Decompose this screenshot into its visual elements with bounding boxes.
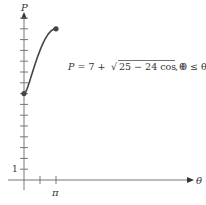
x-axis-label: θ: [196, 175, 202, 186]
x-tick-label-pi: π: [51, 187, 59, 198]
chart: P θ π 1 P = 7 + √ 25 − 24 cos θ , 0 ≤ θ …: [0, 0, 206, 205]
equation-domain: , 0 ≤ θ ≤ π: [175, 61, 206, 72]
plot-area: P θ π 1 P = 7 + √ 25 − 24 cos θ , 0 ≤ θ …: [0, 0, 206, 205]
y-tick-label-one: 1: [12, 164, 18, 174]
svg-text:P = 7 +: P = 7 +: [67, 61, 105, 72]
end-point: [53, 26, 58, 31]
x-axis-arrow-icon: [187, 177, 194, 183]
equation-annotation: P = 7 + √ 25 − 24 cos θ , 0 ≤ θ ≤ π: [67, 61, 206, 73]
y-axis-label: P: [20, 2, 28, 13]
sqrt-symbol: √: [111, 61, 118, 72]
start-point: [21, 91, 26, 96]
data-curve: [24, 29, 56, 94]
